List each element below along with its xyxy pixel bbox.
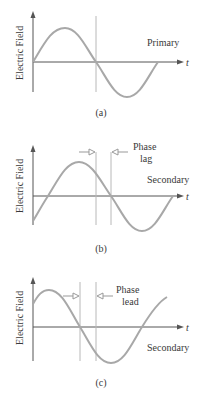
phase-label-line1: Phase [116,284,140,295]
x-axis-arrow-icon [177,194,184,199]
panel-b-phase-lag: Electric Field t Phase lag Secondary (b) [0,125,205,257]
open-arrowhead-right-icon [89,149,95,155]
wave-label: Secondary [147,342,189,353]
panel-c-phase-lead: Electric Field t Phase lead Secondary (c… [0,257,205,399]
y-axis-label: Electric Field [14,291,25,345]
phase-label-line2: lead [122,296,139,307]
panel-caption: (c) [95,377,106,389]
x-axis-arrow-icon [177,325,184,330]
x-axis-label: t [186,57,189,68]
wave-label: Secondary [147,174,189,185]
panel-caption: (a) [95,107,106,119]
y-axis-arrow-icon [31,277,36,284]
x-axis-label: t [186,322,189,333]
wave-label: Primary [147,37,179,48]
phase-label-line2: lag [140,153,152,164]
panel-caption: (b) [95,243,107,255]
x-axis-arrow-icon [177,60,184,65]
phase-lag-wave-plot: Electric Field t Phase lag Secondary (b) [0,125,205,257]
open-arrowhead-right-icon [73,293,79,299]
panel-a-primary: Electric Field t Primary (a) [0,0,205,125]
y-axis-arrow-icon [31,11,36,18]
x-axis-label: t [186,191,189,202]
phase-lead-wave-plot: Electric Field t Phase lead Secondary (c… [0,257,205,399]
primary-wave-plot: Electric Field t Primary (a) [0,0,205,125]
y-axis-label: Electric Field [14,159,25,213]
open-arrowhead-left-icon [97,293,103,299]
open-arrowhead-left-icon [112,149,118,155]
y-axis-label: Electric Field [14,26,25,80]
phase-label-line1: Phase [133,141,157,152]
y-axis-arrow-icon [31,145,36,152]
